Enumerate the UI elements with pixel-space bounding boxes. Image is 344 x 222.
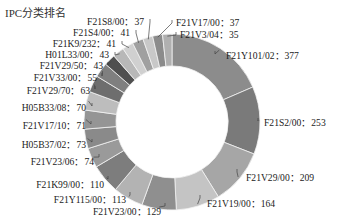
- slice-label: F21K99/00：110: [36, 179, 104, 190]
- slice-label: F21S4/00：41: [73, 27, 130, 38]
- slice-label: F21S2/00：253: [264, 117, 326, 128]
- slice-label: F21Y115/00：113: [54, 194, 126, 205]
- slice-label: F21V23/00：129: [93, 206, 161, 217]
- slice-label: H01L33/00：43: [45, 49, 109, 60]
- donut-chart: F21Y101/02：377F21S2/00：253F21V29/00：209F…: [0, 0, 344, 222]
- slice-label: F21K9/232：41: [53, 38, 117, 49]
- slice-label: F21V23/06：74: [31, 156, 95, 167]
- donut-segment: [172, 34, 253, 100]
- slice-label: F21V17/00：37: [176, 17, 240, 28]
- slice-label: F21V19/00：164: [207, 198, 275, 209]
- slice-label: F21V29/00：209: [246, 172, 314, 183]
- slice-label: F21S8/00：37: [87, 16, 144, 27]
- slice-label: F21V17/10：71: [23, 120, 87, 131]
- slice-label: F21V29/50：43: [40, 60, 104, 71]
- slice-label: F21V33/00：55: [34, 72, 98, 83]
- slice-label: F21V3/04：35: [180, 29, 239, 40]
- slice-label: F21V29/70：63: [27, 85, 91, 96]
- slice-label: H05B37/02：73: [22, 139, 87, 150]
- slice-label: H05B33/08：70: [22, 102, 87, 113]
- slice-label: F21Y101/02：377: [226, 50, 299, 61]
- leader-line: [148, 19, 150, 39]
